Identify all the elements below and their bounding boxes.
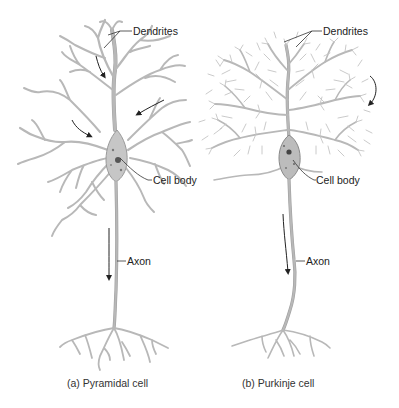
pyramidal-cell-body <box>106 130 127 182</box>
pyramidal-cell: Dendrites Cell body Axon (a) Pyramidal c… <box>18 20 198 389</box>
pyramidal-cell-body-label: Cell body <box>153 174 198 186</box>
purkinje-axon-label: Axon <box>306 255 330 267</box>
pyramidal-caption: (a) Pyramidal cell <box>67 377 148 389</box>
pyramidal-dendrites-leader <box>104 31 132 48</box>
purkinje-caption: (b) Purkinje cell <box>242 377 314 389</box>
neuron-diagram: Dendrites Cell body Axon (a) Pyramidal c… <box>0 0 399 408</box>
pyramidal-dendrites <box>18 20 192 236</box>
purkinje-axon <box>232 180 330 358</box>
purkinje-cell-body <box>279 135 300 180</box>
pyramidal-axon-label: Axon <box>127 255 151 267</box>
purkinje-cell: Dendrites Cell body Axon (b) Purkinje ce… <box>199 25 376 389</box>
purkinje-dendrites-label: Dendrites <box>323 25 368 37</box>
purkinje-cell-body-label: Cell body <box>316 174 361 186</box>
pyramidal-dendrites-label: Dendrites <box>133 25 178 37</box>
